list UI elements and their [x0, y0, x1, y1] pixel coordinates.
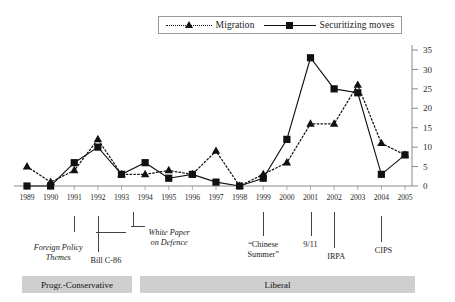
x-axis-tick-label-1999: 1999 — [256, 193, 271, 202]
data-point-securitizing-moves-2000 — [283, 136, 290, 143]
x-axis-tick-label-2001: 2001 — [303, 193, 318, 202]
triangle-marker-icon — [166, 21, 212, 29]
data-point-securitizing-moves-1997 — [212, 179, 219, 186]
government-period-label: Liberal — [265, 280, 291, 290]
x-axis-tick-label-2003: 2003 — [350, 193, 365, 202]
data-point-securitizing-moves-1996 — [189, 171, 196, 178]
x-axis-tick-label-1996: 1996 — [185, 193, 200, 202]
x-axis-tick-label-1992: 1992 — [90, 193, 105, 202]
data-point-securitizing-moves-2005 — [401, 151, 408, 158]
data-point-securitizing-moves-1998 — [236, 182, 243, 189]
series-line-migration — [27, 85, 405, 186]
annotation-leader-line — [311, 212, 312, 236]
data-point-migration-1992 — [94, 135, 102, 142]
annotation-leader-elbow — [131, 226, 145, 227]
legend-item-securitizing-moves: Securitizing moves — [264, 20, 395, 30]
square-marker-icon — [264, 21, 316, 29]
securitization-timeline-chart: Migration Securitizing moves 05101520253… — [0, 0, 455, 302]
government-period-progressive-conservative: Progr.-Conservative — [22, 276, 132, 293]
legend-label-securitizing-moves: Securitizing moves — [320, 20, 395, 30]
data-point-securitizing-moves-1991 — [71, 159, 78, 166]
government-period-liberal: Liberal — [140, 276, 415, 293]
data-point-migration-2002 — [330, 119, 338, 126]
x-axis-tick-label-1994: 1994 — [138, 193, 153, 202]
data-point-migration-2000 — [283, 158, 291, 165]
data-point-securitizing-moves-1990 — [47, 182, 54, 189]
chart-legend: Migration Securitizing moves — [158, 16, 402, 34]
annotation-leader-line — [263, 212, 264, 236]
annotation-leader-elbow — [96, 232, 126, 233]
x-axis-tick-label-2004: 2004 — [374, 193, 389, 202]
x-axis-tick-label-1989: 1989 — [19, 193, 34, 202]
plot-area: 05101520253035 — [0, 38, 455, 193]
annotation-nine-eleven: 9/11 — [291, 240, 331, 250]
government-period-label: Progr.-Conservative — [41, 280, 113, 290]
annotation-leader-line — [381, 216, 382, 242]
annotation-leader-line — [133, 212, 134, 226]
data-point-securitizing-moves-1994 — [142, 159, 149, 166]
y-axis-tick-label: 25 — [423, 84, 433, 94]
x-axis-tick-label-1993: 1993 — [114, 193, 129, 202]
x-axis-tick-label-1997: 1997 — [208, 193, 223, 202]
annotation-cips: CIPS — [363, 246, 403, 256]
data-point-migration-1989 — [23, 162, 31, 169]
legend-label-migration: Migration — [216, 20, 255, 30]
data-point-securitizing-moves-2004 — [378, 171, 385, 178]
x-axis-tick-labels: 1989199019911992199319941995199619971998… — [0, 193, 455, 207]
x-axis-tick-label-2002: 2002 — [327, 193, 342, 202]
x-axis-tick-label-1990: 1990 — [43, 193, 58, 202]
y-axis-tick-label: 10 — [423, 142, 433, 152]
data-point-securitizing-moves-1992 — [94, 144, 101, 151]
annotation-leader-line — [74, 216, 75, 232]
annotation-chinese-summer: “Chinese Summer” — [231, 240, 295, 260]
series-line-securitizing-moves — [27, 58, 405, 186]
annotation-leader-line — [98, 216, 99, 252]
x-axis-tick-label-1998: 1998 — [232, 193, 247, 202]
data-point-securitizing-moves-2002 — [331, 85, 338, 92]
data-point-securitizing-moves-2001 — [307, 54, 314, 61]
data-point-securitizing-moves-1989 — [23, 182, 30, 189]
data-point-securitizing-moves-1995 — [165, 175, 172, 182]
y-axis-tick-label: 20 — [423, 103, 433, 113]
y-axis-tick-label: 5 — [423, 162, 428, 172]
data-point-migration-1997 — [212, 146, 220, 153]
plot-svg: 05101520253035 — [0, 38, 455, 193]
x-axis-tick-label-1995: 1995 — [161, 193, 176, 202]
data-point-migration-1995 — [165, 166, 173, 173]
data-point-securitizing-moves-1999 — [260, 175, 267, 182]
annotation-leader-line — [334, 212, 335, 248]
data-point-migration-2001 — [306, 119, 314, 126]
annotation-bill-c-86: Bill C-86 — [75, 256, 137, 266]
data-point-migration-2004 — [377, 139, 385, 146]
y-axis-tick-label: 15 — [423, 123, 433, 133]
data-point-securitizing-moves-1993 — [118, 171, 125, 178]
legend-item-migration: Migration — [166, 20, 255, 30]
y-axis-tick-label: 35 — [423, 45, 433, 55]
annotation-white-paper-on-defence: White Paper on Defence — [129, 228, 209, 248]
annotation-irpa: IRPA — [316, 252, 356, 262]
x-axis-tick-label-1991: 1991 — [67, 193, 82, 202]
y-axis-tick-label: 0 — [423, 181, 428, 191]
data-point-migration-1994 — [141, 170, 149, 177]
x-axis-tick-label-2000: 2000 — [279, 193, 294, 202]
data-point-migration-2003 — [354, 80, 362, 87]
y-axis-tick-label: 30 — [423, 65, 433, 75]
data-point-securitizing-moves-2003 — [354, 89, 361, 96]
x-axis-tick-label-2005: 2005 — [397, 193, 412, 202]
